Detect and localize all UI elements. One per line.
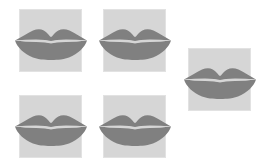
lips-icon bbox=[14, 22, 88, 60]
lips-icon bbox=[14, 108, 88, 146]
lips-tile-top-center[interactable] bbox=[103, 9, 166, 72]
lips-tile-right[interactable] bbox=[188, 48, 251, 111]
lips-icon bbox=[98, 22, 172, 60]
lips-icon bbox=[98, 108, 172, 146]
lips-tile-bottom-center[interactable] bbox=[103, 95, 166, 158]
icon-grid-canvas bbox=[0, 0, 275, 162]
lips-icon bbox=[183, 61, 257, 99]
lips-tile-top-left[interactable] bbox=[19, 9, 82, 72]
lips-tile-bottom-left[interactable] bbox=[19, 95, 82, 158]
